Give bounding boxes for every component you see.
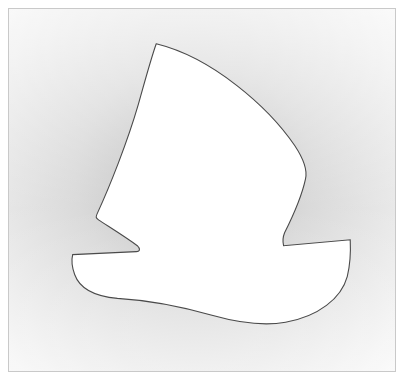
canvas-root [0,0,404,385]
image-frame [8,8,396,372]
figure-canvas [9,9,395,371]
